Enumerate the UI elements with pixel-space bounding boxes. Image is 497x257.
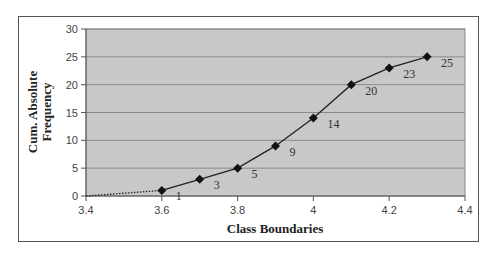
data-label: 25 (441, 56, 453, 70)
x-tick-label: 3.4 (78, 204, 93, 216)
data-label: 1 (176, 189, 182, 203)
x-tick-label: 4 (310, 204, 316, 216)
data-label: 20 (365, 84, 377, 98)
data-label: 14 (327, 117, 339, 131)
x-tick-label: 3.6 (154, 204, 169, 216)
x-tick-label: 3.8 (230, 204, 245, 216)
cumulative-frequency-chart: 051015202530 3.43.63.844.24.4 1359142023… (0, 0, 497, 257)
svg-text:Frequency: Frequency (39, 82, 54, 141)
y-axis-title: Cum. Absolute Frequency (25, 71, 54, 154)
data-label: 23 (403, 67, 415, 81)
y-tick-label: 30 (66, 23, 78, 35)
y-tick-label: 5 (72, 162, 78, 174)
y-tick-label: 20 (66, 79, 78, 91)
data-label: 3 (214, 178, 220, 192)
x-axis-title: Class Boundaries (227, 221, 323, 236)
y-tick-label: 10 (66, 134, 78, 146)
y-axis: 051015202530 (66, 23, 86, 202)
y-tick-label: 25 (66, 51, 78, 63)
data-label: 9 (290, 145, 296, 159)
svg-text:Cum. Absolute: Cum. Absolute (25, 71, 40, 154)
x-tick-label: 4.2 (382, 204, 397, 216)
x-tick-label: 4.4 (457, 204, 472, 216)
y-tick-label: 15 (66, 107, 78, 119)
y-tick-label: 0 (72, 190, 78, 202)
data-label: 5 (252, 167, 258, 181)
x-axis: 3.43.63.844.24.4 (78, 196, 472, 216)
